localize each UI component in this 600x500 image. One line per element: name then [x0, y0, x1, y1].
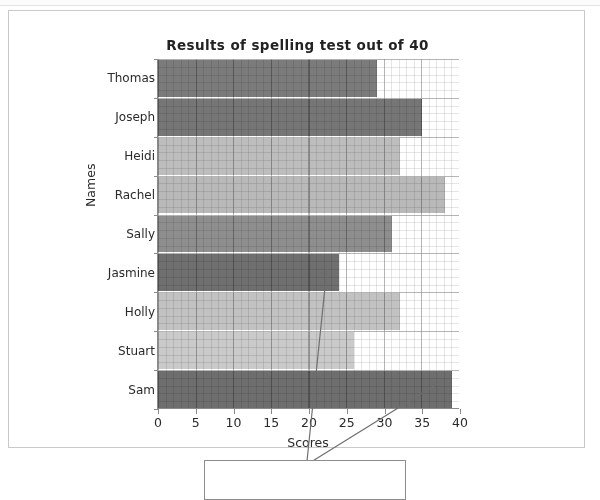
y-tick-label-thomas: Thomas	[107, 70, 155, 86]
x-tick-label-5: 5	[181, 415, 211, 430]
x-axis-title: Scores	[157, 435, 459, 450]
bar-joseph	[158, 99, 422, 136]
annotation-callout-box	[204, 460, 406, 500]
x-tick-label-15: 15	[256, 415, 286, 430]
bar-row	[158, 215, 459, 254]
x-tick	[347, 409, 348, 414]
bar-holly	[158, 293, 400, 330]
y-tick-label-jasmine: Jasmine	[108, 265, 155, 281]
bar-sam	[158, 371, 452, 408]
page-top-edge	[0, 0, 600, 6]
bar-row	[158, 253, 459, 292]
x-tick-label-25: 25	[332, 415, 362, 430]
x-tick-label-30: 30	[370, 415, 400, 430]
bar-sally	[158, 216, 392, 253]
bar-jasmine	[158, 254, 339, 291]
bar-row	[158, 370, 459, 409]
x-tick-label-0: 0	[143, 415, 173, 430]
y-tick-label-sam: Sam	[128, 382, 155, 398]
bar-rachel	[158, 177, 445, 214]
y-tick-label-heidi: Heidi	[124, 148, 155, 164]
y-axis-title: Names	[83, 164, 98, 207]
x-tick	[422, 409, 423, 414]
x-tick-label-40: 40	[445, 415, 475, 430]
x-tick-label-35: 35	[407, 415, 437, 430]
y-tick	[154, 98, 158, 99]
y-tick-label-sally: Sally	[126, 226, 155, 242]
y-tick	[154, 176, 158, 177]
x-tick	[309, 409, 310, 414]
x-tick-label-10: 10	[219, 415, 249, 430]
y-tick	[154, 370, 158, 371]
y-tick	[154, 137, 158, 138]
bar-row	[158, 59, 459, 98]
bar-row	[158, 331, 459, 370]
y-tick-label-holly: Holly	[125, 304, 155, 320]
y-tick-label-joseph: Joseph	[115, 109, 155, 125]
bar-row	[158, 137, 459, 176]
x-tick-label-20: 20	[294, 415, 324, 430]
plot-area: ThomasJosephHeidiRachelSallyJasmineHolly…	[157, 59, 459, 409]
x-tick	[460, 409, 461, 414]
bar-chart: Results of spelling test out of 40 Names…	[9, 11, 586, 449]
y-tick	[154, 253, 158, 254]
chart-title: Results of spelling test out of 40	[9, 37, 586, 53]
x-tick	[158, 409, 159, 414]
y-tick-label-rachel: Rachel	[115, 187, 155, 203]
bar-thomas	[158, 60, 377, 97]
x-tick	[385, 409, 386, 414]
y-tick-label-stuart: Stuart	[118, 343, 155, 359]
y-tick	[154, 292, 158, 293]
bar-heidi	[158, 138, 400, 175]
bar-stuart	[158, 332, 354, 369]
x-tick	[271, 409, 272, 414]
y-tick	[154, 215, 158, 216]
worksheet-page-frame: Results of spelling test out of 40 Names…	[8, 10, 585, 448]
y-tick	[154, 59, 158, 60]
bar-row	[158, 98, 459, 137]
bar-row	[158, 176, 459, 215]
x-tick	[234, 409, 235, 414]
y-tick	[154, 331, 158, 332]
x-tick	[196, 409, 197, 414]
bar-row	[158, 292, 459, 331]
